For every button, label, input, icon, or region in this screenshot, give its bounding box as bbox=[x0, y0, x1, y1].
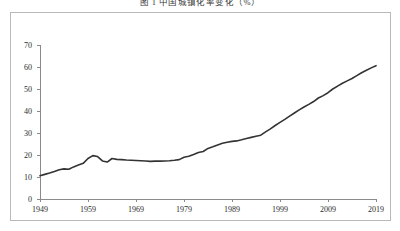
figure-container: 图 1 中国城镇化率变化（%） 0 10 20 30 40 50 60 70 1… bbox=[0, 0, 400, 231]
x-tick-label-1979: 1979 bbox=[167, 206, 201, 214]
x-tick-label-1989: 1989 bbox=[215, 206, 249, 214]
x-tick-mark bbox=[184, 199, 185, 202]
x-tick-mark bbox=[328, 199, 329, 202]
x-tick-mark bbox=[88, 199, 89, 202]
x-tick-mark bbox=[40, 199, 41, 202]
x-tick-label-2019: 2019 bbox=[359, 206, 393, 214]
x-axis-tick-labels: 1949 1959 1969 1979 1989 1999 2009 2019 bbox=[0, 0, 400, 231]
x-tick-mark bbox=[232, 199, 233, 202]
x-tick-label-2009: 2009 bbox=[311, 206, 345, 214]
x-tick-label-1999: 1999 bbox=[263, 206, 297, 214]
x-tick-label-1959: 1959 bbox=[71, 206, 105, 214]
x-tick-label-1949: 1949 bbox=[23, 206, 57, 214]
x-tick-mark bbox=[376, 199, 377, 202]
x-tick-label-1969: 1969 bbox=[119, 206, 153, 214]
x-tick-mark bbox=[136, 199, 137, 202]
x-tick-mark bbox=[280, 199, 281, 202]
